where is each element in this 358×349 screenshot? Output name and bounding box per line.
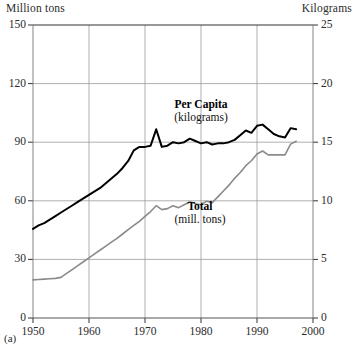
right-tick-25: 25 (321, 18, 347, 30)
left-tick-90: 90 (0, 135, 26, 147)
right-tick-0: 0 (321, 311, 347, 323)
left-tick-150: 150 (0, 18, 26, 30)
x-tick-1950: 1950 (13, 325, 53, 337)
axis-tick-marks (28, 25, 318, 323)
panel-caption: (a) (4, 332, 16, 344)
series-name-total: Total (152, 200, 248, 213)
left-tick-30: 30 (0, 252, 26, 264)
figure-panel: Million tons Kilograms 0306090120150 051… (0, 0, 358, 349)
series-label-total: Total (mill. tons) (152, 200, 248, 226)
series-name-per-capita: Per Capita (146, 98, 256, 111)
right-tick-15: 15 (321, 135, 347, 147)
right-tick-20: 20 (321, 77, 347, 89)
gridlines (33, 25, 313, 318)
plot-frame (33, 25, 313, 318)
right-tick-10: 10 (321, 194, 347, 206)
left-tick-60: 60 (0, 194, 26, 206)
x-tick-1960: 1960 (69, 325, 109, 337)
line-chart-plot (0, 0, 358, 349)
series-unit-total: (mill. tons) (152, 213, 248, 226)
x-tick-1990: 1990 (237, 325, 277, 337)
x-tick-1970: 1970 (125, 325, 165, 337)
left-tick-0: 0 (0, 311, 26, 323)
left-tick-120: 120 (0, 77, 26, 89)
right-tick-5: 5 (321, 252, 347, 264)
series-label-per-capita: Per Capita (kilograms) (146, 98, 256, 124)
series-unit-per-capita: (kilograms) (146, 111, 256, 124)
x-tick-1980: 1980 (181, 325, 221, 337)
x-tick-2000: 2000 (293, 325, 333, 337)
